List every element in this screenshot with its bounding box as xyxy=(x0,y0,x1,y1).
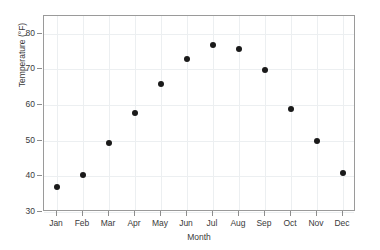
gridline-horizontal xyxy=(44,212,354,213)
gridline-vertical xyxy=(291,16,292,210)
gridline-vertical xyxy=(161,16,162,210)
gridline-vertical xyxy=(317,16,318,210)
x-tick-mark xyxy=(134,211,135,216)
data-point xyxy=(184,56,190,62)
gridline-horizontal xyxy=(44,69,354,70)
x-tick-mark xyxy=(316,211,317,216)
gridline-vertical xyxy=(265,16,266,210)
data-point xyxy=(132,110,138,116)
data-point xyxy=(340,170,346,176)
plot-area xyxy=(43,15,355,211)
y-tick-mark xyxy=(37,104,42,105)
x-tick-mark xyxy=(56,211,57,216)
data-point xyxy=(106,140,112,146)
gridline-horizontal xyxy=(44,141,354,142)
x-tick-mark xyxy=(82,211,83,216)
gridline-vertical xyxy=(343,16,344,210)
gridline-vertical xyxy=(187,16,188,210)
x-tick-mark xyxy=(160,211,161,216)
gridline-vertical xyxy=(239,16,240,210)
x-tick-mark xyxy=(238,211,239,216)
y-tick-mark xyxy=(37,33,42,34)
data-point xyxy=(210,42,216,48)
x-tick-mark xyxy=(342,211,343,216)
x-axis-title: Month xyxy=(43,232,355,242)
x-tick-mark xyxy=(108,211,109,216)
data-point xyxy=(314,138,320,144)
y-tick-mark xyxy=(37,175,42,176)
data-point xyxy=(158,81,164,87)
data-point xyxy=(288,106,294,112)
y-tick-label: 70 xyxy=(5,64,35,73)
gridline-vertical xyxy=(109,16,110,210)
x-tick-mark xyxy=(264,211,265,216)
data-point xyxy=(54,184,60,190)
y-tick-mark xyxy=(37,140,42,141)
data-point xyxy=(80,172,86,178)
y-tick-label: 30 xyxy=(5,207,35,216)
gridline-horizontal xyxy=(44,176,354,177)
gridline-vertical xyxy=(83,16,84,210)
y-tick-label: 50 xyxy=(5,136,35,145)
x-tick-mark xyxy=(212,211,213,216)
y-tick-mark xyxy=(37,211,42,212)
data-point xyxy=(262,67,268,73)
x-tick-label: Dec xyxy=(322,219,362,228)
y-tick-label: 60 xyxy=(5,100,35,109)
data-point xyxy=(236,46,242,52)
gridline-horizontal xyxy=(44,105,354,106)
scatter-chart-figure: Temperature (°F) Month 304050607080JanFe… xyxy=(0,0,380,250)
x-tick-mark xyxy=(186,211,187,216)
gridline-vertical xyxy=(57,16,58,210)
x-tick-mark xyxy=(290,211,291,216)
y-tick-mark xyxy=(37,68,42,69)
y-tick-label: 80 xyxy=(5,29,35,38)
y-tick-label: 40 xyxy=(5,171,35,180)
gridline-horizontal xyxy=(44,34,354,35)
